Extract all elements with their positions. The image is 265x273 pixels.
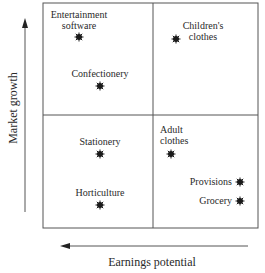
marker-childrens-clothes: [172, 35, 181, 44]
label-grocery: Grocery: [199, 195, 232, 206]
label-line: clothes: [183, 31, 224, 42]
label-line: Provisions: [190, 176, 232, 187]
marker-stationery: [96, 150, 105, 159]
label-line: clothes: [160, 135, 188, 146]
y-axis-arrow: [22, 18, 28, 212]
label-childrens-clothes: Children's clothes: [183, 20, 224, 42]
label-line: Children's: [183, 20, 224, 31]
label-line: Stationery: [79, 136, 120, 147]
arrowhead-left-icon: [60, 243, 70, 249]
marker-provisions: [236, 178, 245, 187]
x-axis-arrow: [60, 243, 248, 249]
arrowhead-up-icon: [22, 18, 28, 28]
label-line: software: [51, 20, 108, 31]
label-line: Adult: [160, 124, 188, 135]
label-line: Confectionery: [71, 68, 128, 79]
label-entertainment-software: Entertainment software: [51, 9, 108, 31]
matrix-graphic: [0, 0, 265, 273]
marker-entertainment-software: [75, 33, 84, 42]
marker-grocery: [236, 197, 245, 206]
label-horticulture: Horticulture: [76, 187, 125, 198]
label-line: Grocery: [199, 195, 232, 206]
label-line: Horticulture: [76, 187, 125, 198]
label-confectionery: Confectionery: [71, 68, 128, 79]
portfolio-matrix-diagram: Entertainment software Confectionery Chi…: [0, 0, 265, 273]
x-axis-label: Earnings potential: [108, 255, 196, 270]
marker-adult-clothes: [167, 150, 176, 159]
label-stationery: Stationery: [79, 136, 120, 147]
label-adult-clothes: Adult clothes: [160, 124, 188, 146]
label-line: Entertainment: [51, 9, 108, 20]
y-axis-label: Market growth: [6, 72, 21, 144]
label-provisions: Provisions: [190, 176, 232, 187]
marker-horticulture: [96, 201, 105, 210]
marker-confectionery: [96, 82, 105, 91]
